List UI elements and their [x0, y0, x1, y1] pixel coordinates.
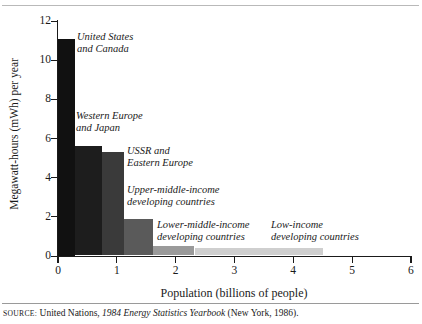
annotation-line-1: Western Europe: [76, 110, 143, 122]
annotation-line-1: Upper-middle-income: [127, 184, 220, 196]
annotation-line-2: and Japan: [76, 122, 143, 134]
x-tick-5: [352, 256, 353, 263]
y-tick-label-12: 12: [25, 15, 51, 27]
x-tick-4: [293, 256, 294, 263]
bar-united-states-and-canada: [58, 39, 75, 256]
x-tick-2: [175, 256, 176, 263]
y-tick-10: [51, 60, 58, 61]
y-tick-label-0: 0: [25, 250, 51, 262]
y-tick-12: [51, 21, 58, 22]
annotation-western-europe-and-japan: Western Europe and Japan: [76, 110, 143, 135]
annotation-line-2: Eastern Europe: [127, 157, 193, 169]
x-tick-3: [234, 256, 235, 263]
bar-western-europe-and-japan: [75, 146, 103, 255]
figure-chart-energy-vs-population: 0 2 4 6 8 10 12 0 1 2 3 4 5 6 Megawatt-h…: [0, 0, 422, 324]
plot-area: 0 2 4 6 8 10 12 0 1 2 3 4 5 6 Megawatt-h…: [0, 0, 422, 324]
annotation-line-2: developing countries: [271, 231, 359, 243]
x-tick-label-1: 1: [107, 265, 127, 277]
y-tick-label-2: 2: [25, 211, 51, 223]
annotation-line-2: developing countries: [127, 196, 220, 208]
y-tick-label-6: 6: [25, 133, 51, 145]
annotation-line-1: Lower-middle-income: [157, 219, 250, 231]
y-tick-8: [51, 99, 58, 100]
y-tick-label-10: 10: [25, 54, 51, 66]
x-tick-6: [410, 256, 411, 263]
y-tick-6: [51, 138, 58, 139]
y-tick-label-4: 4: [25, 172, 51, 184]
y-axis-title: Megawatt-hours (mWh) per year: [8, 34, 20, 234]
source-imprint: (New York, 1986).: [228, 308, 299, 318]
y-tick-label-8: 8: [25, 93, 51, 105]
x-axis-title: Population (billions of people): [57, 286, 411, 301]
annotation-united-states-and-canada: United States and Canada: [77, 31, 133, 56]
annotation-line-2: developing countries: [157, 231, 250, 243]
source-label: SOURCE:: [3, 309, 37, 318]
y-tick-2: [51, 216, 58, 217]
annotation-ussr-and-eastern-europe: USSR and Eastern Europe: [127, 145, 193, 170]
x-tick-label-3: 3: [224, 265, 244, 277]
annotation-upper-middle-income-developing-countries: Upper-middle-income developing countries: [127, 184, 220, 209]
annotation-lower-middle-income-developing-countries: Lower-middle-income developing countries: [157, 219, 250, 244]
x-tick-1: [116, 256, 117, 263]
source-divider-rule: [2, 303, 419, 304]
x-tick-0: [57, 256, 58, 263]
annotation-low-income-developing-countries: Low-income developing countries: [271, 219, 359, 244]
bar-low-income-developing-countries: [195, 248, 323, 256]
annotation-line-1: United States: [77, 31, 133, 43]
bar-ussr-and-eastern-europe: [102, 152, 124, 255]
source-title: 1984 Energy Statistics Yearbook: [102, 308, 225, 318]
annotation-line-1: Low-income: [271, 219, 359, 231]
x-tick-label-2: 2: [166, 265, 186, 277]
y-tick-4: [51, 177, 58, 178]
x-tick-label-6: 6: [401, 265, 421, 277]
source-publisher: United Nations,: [40, 308, 100, 318]
annotation-line-2: and Canada: [77, 43, 133, 55]
bar-lower-middle-income-developing-countries: [153, 246, 194, 256]
x-tick-label-0: 0: [48, 265, 68, 277]
x-tick-label-4: 4: [283, 265, 303, 277]
bar-upper-middle-income-developing-countries: [124, 219, 153, 255]
x-tick-label-5: 5: [342, 265, 362, 277]
annotation-line-1: USSR and: [127, 145, 193, 157]
source-note: SOURCE: United Nations, 1984 Energy Stat…: [3, 308, 299, 319]
